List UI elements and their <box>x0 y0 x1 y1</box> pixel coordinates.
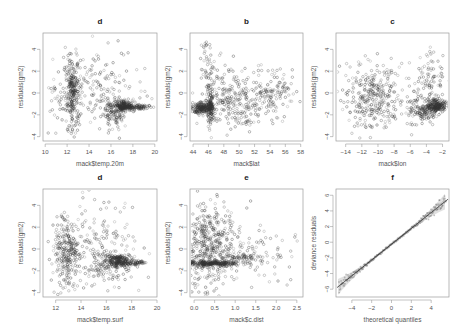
data-point <box>421 67 424 70</box>
data-point <box>51 91 54 94</box>
data-point <box>199 216 202 219</box>
data-point <box>54 247 57 250</box>
data-point <box>442 54 445 57</box>
data-point <box>232 70 235 73</box>
data-point <box>388 119 391 122</box>
data-point <box>427 76 430 79</box>
data-point <box>294 236 297 239</box>
data-point <box>254 113 257 116</box>
data-point <box>242 79 245 82</box>
data-point <box>240 116 243 119</box>
data-point <box>54 238 57 241</box>
data-point <box>214 202 217 205</box>
data-point <box>232 78 235 81</box>
data-points <box>189 27 309 145</box>
x-tick-label: 56 <box>282 149 289 155</box>
y-tick-label: −2 <box>31 111 37 119</box>
data-point <box>70 269 73 272</box>
data-point <box>79 279 82 282</box>
data-point <box>416 92 419 95</box>
qq-point <box>419 222 421 224</box>
data-point <box>79 59 82 62</box>
data-point <box>67 223 70 226</box>
x-tick-label: 1.0 <box>231 305 240 311</box>
data-point <box>193 223 196 226</box>
data-point <box>118 74 121 77</box>
x-tick-label: 1.5 <box>252 305 261 311</box>
panel-lon: c−14−12−10−8−6−4−2−4−2024mack$lonresidua… <box>310 17 451 167</box>
qq-point <box>345 274 347 276</box>
data-point <box>368 105 371 108</box>
data-point <box>92 58 95 61</box>
x-tick-label: −14 <box>341 149 352 155</box>
data-point <box>91 285 94 288</box>
y-tick-label: 6 <box>324 193 330 197</box>
y-tick-label: 0 <box>31 247 37 251</box>
data-point <box>56 216 59 219</box>
data-point <box>213 290 216 293</box>
data-point <box>56 117 59 120</box>
data-point <box>204 292 207 295</box>
data-point <box>223 206 226 209</box>
data-point <box>100 88 103 91</box>
data-point <box>221 108 224 111</box>
data-point <box>81 191 84 194</box>
data-point <box>104 100 107 103</box>
data-point <box>199 57 202 60</box>
data-point <box>68 65 71 68</box>
panel-title: b <box>244 17 249 26</box>
data-point <box>257 74 260 77</box>
data-point <box>276 76 279 79</box>
data-point <box>93 222 96 225</box>
x-tick-label: −4 <box>348 305 356 311</box>
data-point <box>205 72 208 75</box>
qq-point <box>425 218 427 220</box>
data-point <box>103 69 106 72</box>
x-axis-label: mack$c.dist <box>229 316 264 323</box>
y-tick-label: −6 <box>324 285 330 293</box>
data-point <box>53 291 56 294</box>
data-point <box>81 213 84 216</box>
data-point <box>182 232 185 235</box>
data-point <box>376 124 379 127</box>
data-point <box>181 261 184 264</box>
data-point <box>124 226 127 229</box>
data-point <box>112 93 115 96</box>
data-point <box>88 272 91 275</box>
data-point <box>111 241 114 244</box>
data-point <box>288 94 291 97</box>
data-point <box>84 272 87 275</box>
data-point <box>74 132 77 135</box>
data-point <box>421 82 424 85</box>
data-point <box>246 249 249 252</box>
qq-point <box>347 274 349 276</box>
data-point <box>59 91 62 94</box>
data-point <box>414 82 417 85</box>
data-point <box>70 120 73 123</box>
data-point <box>136 266 139 269</box>
x-tick-label: 52 <box>251 149 258 155</box>
data-point <box>275 110 278 113</box>
data-point <box>365 126 368 128</box>
x-axis-label: mack$lat <box>233 160 259 167</box>
data-point <box>76 129 79 132</box>
data-point <box>433 81 436 84</box>
data-point <box>275 235 278 238</box>
y-tick-label: −4 <box>178 289 184 297</box>
data-point <box>148 252 151 255</box>
qq-point <box>353 276 355 278</box>
data-point <box>261 241 264 244</box>
data-point <box>75 258 78 261</box>
data-point <box>236 107 239 110</box>
data-point <box>397 94 400 97</box>
data-point <box>265 112 268 115</box>
data-point <box>385 83 388 86</box>
data-point <box>389 112 392 115</box>
data-point <box>367 104 370 107</box>
y-tick-label: −4 <box>31 289 37 297</box>
data-point <box>265 251 268 254</box>
data-point <box>277 89 280 92</box>
data-point <box>126 223 129 226</box>
data-point <box>360 124 363 127</box>
qq-point <box>349 280 351 282</box>
